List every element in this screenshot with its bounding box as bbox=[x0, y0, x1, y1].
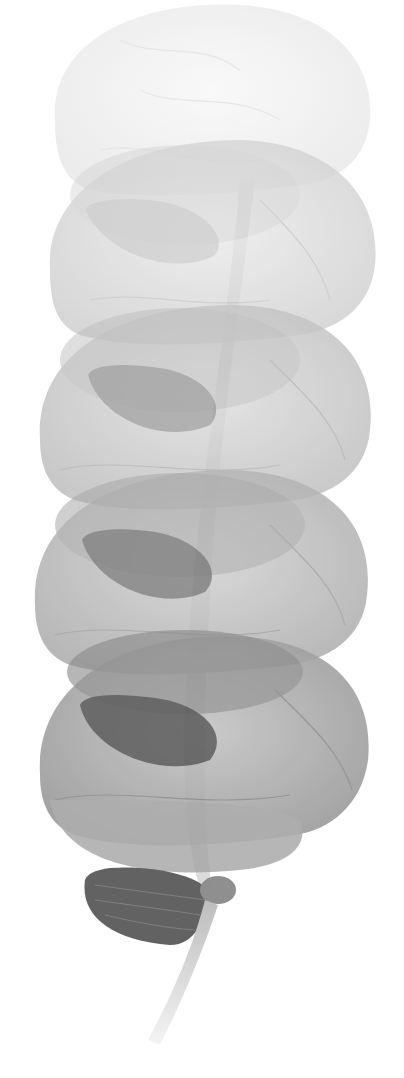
brain-layer-5 bbox=[40, 630, 369, 872]
brain-stack-illustration bbox=[0, 0, 404, 1078]
brain-stack-svg bbox=[0, 0, 404, 1078]
